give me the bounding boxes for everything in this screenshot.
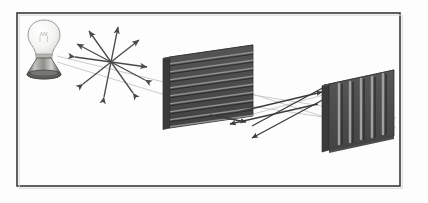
- first-polarizer-horizontal-slits: [163, 45, 255, 130]
- diagram-canvas: [0, 0, 428, 203]
- polarizer-two-side: [322, 84, 329, 152]
- polarizer-one-side: [163, 57, 170, 130]
- bulb-base-highlight: [31, 70, 57, 75]
- polarization-diagram-illustration: [0, 0, 428, 203]
